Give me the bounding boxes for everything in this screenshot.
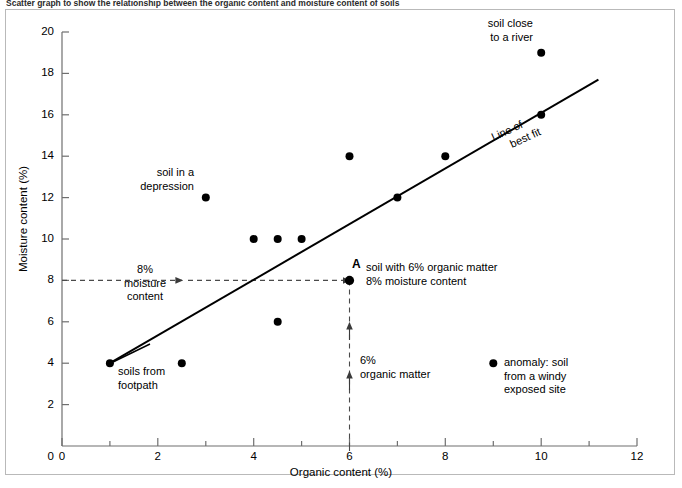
x-tick-label: 12 <box>622 450 652 462</box>
annotation-anomaly: anomaly: soil from a windy exposed site <box>504 356 568 397</box>
annotation-line: footpath <box>118 379 165 393</box>
x-tick-label: 2 <box>143 450 173 462</box>
y-axis-title: Moisture content (%) <box>17 149 29 289</box>
annotation-line: soil in a <box>66 166 194 180</box>
annotation-8-percent-moisture: 8% moisture content <box>97 263 193 304</box>
annotation-line: 6% <box>360 354 430 368</box>
y-axis-ticks <box>62 32 69 405</box>
data-point <box>393 194 401 202</box>
data-point <box>274 318 282 326</box>
y-tick-label: 4 <box>24 356 54 368</box>
annotation-line: exposed site <box>504 383 568 397</box>
annotation-soil-in-depression: soil in a depression <box>66 166 194 193</box>
data-point-a <box>345 276 354 285</box>
data-point <box>106 359 114 367</box>
scatter-plot-canvas <box>0 0 682 488</box>
y-tick-label: 20 <box>24 25 54 37</box>
annotation-line: depression <box>66 180 194 194</box>
data-point <box>178 359 186 367</box>
point-a-marker-label: A <box>352 258 361 272</box>
y-tick-label: 14 <box>24 149 54 161</box>
data-point <box>346 152 354 160</box>
annotation-line: soils from <box>118 365 165 379</box>
x-tick-label: 4 <box>239 450 269 462</box>
y-tick-label: 12 <box>24 191 54 203</box>
annotation-6-percent-organic: 6% organic matter <box>360 354 430 381</box>
x-axis-title: Organic content (%) <box>0 466 682 478</box>
annotation-line: content <box>97 290 193 304</box>
data-point <box>250 235 258 243</box>
data-point <box>441 152 449 160</box>
annotation-line: soil with 6% organic matter <box>366 261 497 275</box>
data-point <box>537 111 545 119</box>
y-tick-label: 8 <box>24 273 54 285</box>
x-tick-label: 0 <box>47 450 77 462</box>
leader-line-footpath <box>113 344 150 362</box>
data-point <box>274 235 282 243</box>
x-tick-label: 8 <box>430 450 460 462</box>
data-point <box>202 194 210 202</box>
data-points <box>106 49 545 368</box>
annotation-soils-from-footpath: soils from footpath <box>118 365 165 392</box>
y-tick-label: 2 <box>24 398 54 410</box>
y-tick-label: 18 <box>24 66 54 78</box>
annotation-line: organic matter <box>360 368 430 382</box>
data-point <box>298 235 306 243</box>
annotation-line: anomaly: soil <box>504 356 568 370</box>
annotation-line: 8% <box>97 263 193 277</box>
annotation-line: soil close <box>398 17 533 31</box>
annotation-line: from a windy <box>504 370 568 384</box>
data-point <box>537 49 545 57</box>
y-tick-label: 10 <box>24 232 54 244</box>
y-tick-label: 6 <box>24 315 54 327</box>
annotation-line: to a river <box>398 31 533 45</box>
annotation-line: moisture <box>97 277 193 291</box>
annotation-line: 8% moisture content <box>366 275 497 289</box>
annotation-soil-close-to-river: soil close to a river <box>398 17 533 44</box>
chart-page: Scatter graph to show the relationship b… <box>0 0 682 488</box>
annotation-line: A <box>352 257 361 271</box>
x-tick-label: 10 <box>526 450 556 462</box>
x-tick-label: 6 <box>335 450 365 462</box>
data-point-anomaly <box>489 359 497 367</box>
y-tick-label: 16 <box>24 108 54 120</box>
annotation-point-a: soil with 6% organic matter 8% moisture … <box>366 261 497 288</box>
